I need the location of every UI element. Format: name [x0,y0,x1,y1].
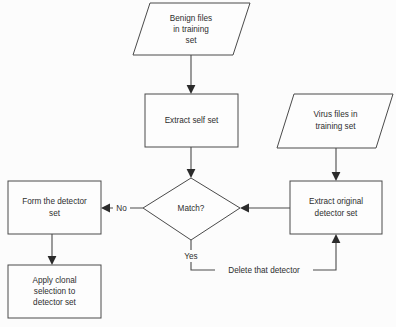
node-virus-files-line-2: training set [315,122,356,131]
node-benign-files-line-3: set [186,36,198,45]
edge-label-delete-that-detector-text: Delete that detector [228,266,300,275]
node-apply-clonal-line-3: detector set [33,298,77,307]
node-extract-self-set-line-1: Extract self set [165,116,219,125]
edge-label-no: No [113,202,130,214]
flowchart-canvas: Benign files in training set Extract sel… [0,0,396,327]
node-apply-clonal-line-2: selection to [34,287,76,296]
connector-form-detector-to-apply-clonal [48,234,57,265]
node-apply-clonal-line-1: Apply clonal [32,276,76,285]
node-virus-files-line-1: Virus files in [314,110,358,119]
node-match-decision-line-1: Match? [178,204,205,213]
node-extract-original-line-2: detector set [315,209,359,218]
node-form-the-detector-set[interactable]: Form the detector set [8,181,101,234]
edge-label-yes: Yes [179,250,201,262]
node-extract-original-line-1: Extract original [309,197,363,206]
node-benign-files-line-1: Benign files [170,14,212,23]
edge-label-yes-text: Yes [184,252,197,261]
connector-virus-to-extract-original [332,148,341,181]
node-extract-original-detector-set[interactable]: Extract original detector set [290,181,382,234]
node-apply-clonal-selection[interactable]: Apply clonal selection to detector set [8,265,101,318]
connector-extract-self-to-match [187,147,196,178]
node-form-detector-line-2: set [49,209,61,218]
node-form-detector-line-1: Form the detector [22,197,87,206]
flowchart-svg: Benign files in training set Extract sel… [0,0,396,327]
connector-extract-original-to-match [240,204,290,213]
node-extract-self-set[interactable]: Extract self set [145,94,238,147]
edge-label-no-text: No [116,204,127,213]
connector-benign-to-extract-self [187,55,196,94]
node-virus-files[interactable]: Virus files in training set [277,94,393,148]
node-benign-files-line-2: in training [173,25,209,34]
node-benign-files[interactable]: Benign files in training set [133,3,250,55]
node-match-decision[interactable]: Match? [143,178,240,240]
edge-label-delete-that-detector: Delete that detector [215,264,313,276]
